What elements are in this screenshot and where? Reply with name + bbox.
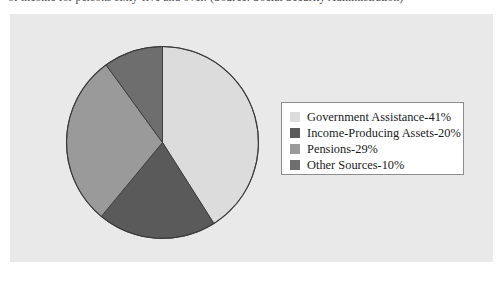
legend-item-government-assistance: Government Assistance-41% — [290, 109, 463, 125]
legend-item-other-sources: Other Sources-10% — [290, 157, 463, 173]
chart-panel: Government Assistance-41% Income-Produci… — [10, 14, 493, 262]
chart-legend: Government Assistance-41% Income-Produci… — [281, 102, 464, 175]
legend-swatch-pensions — [290, 144, 300, 154]
legend-label-income-producing-assets: Income-Producing Assets-20% — [307, 127, 461, 139]
cropped-text-strip: of income for persons sixty-five and ove… — [0, 0, 503, 10]
pie-chart-svg — [65, 45, 260, 240]
legend-label-other-sources: Other Sources-10% — [307, 159, 404, 171]
legend-label-pensions: Pensions-29% — [307, 143, 378, 155]
cropped-caption-text: of income for persons sixty-five and ove… — [8, 0, 495, 3]
legend-label-government-assistance: Government Assistance-41% — [307, 111, 451, 123]
legend-swatch-income-producing-assets — [290, 128, 300, 138]
legend-swatch-government-assistance — [290, 112, 300, 122]
pie-chart — [65, 45, 260, 240]
legend-item-pensions: Pensions-29% — [290, 141, 463, 157]
legend-swatch-other-sources — [290, 160, 300, 170]
legend-item-income-producing-assets: Income-Producing Assets-20% — [290, 125, 463, 141]
pie-slice-group — [66, 46, 258, 238]
